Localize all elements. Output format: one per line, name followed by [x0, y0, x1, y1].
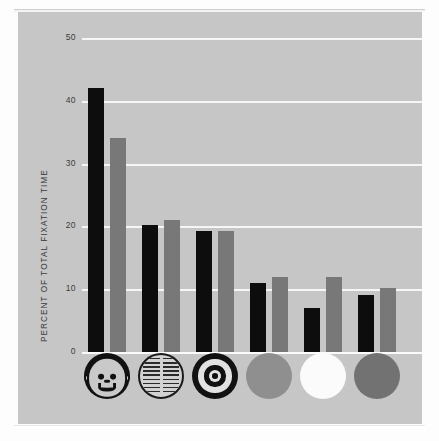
newsprint-columns [143, 358, 179, 394]
white-disc-stimulus-icon [300, 353, 346, 399]
chart-panel: 50 40 30 20 10 0 PERCENT OF TOTAL FIXATI… [18, 12, 422, 424]
bullseye-ring-4 [212, 373, 218, 379]
red-disc-stimulus-icon [246, 353, 292, 399]
stimulus-icons-row [18, 12, 422, 424]
newsprint-column-right [163, 358, 180, 394]
bullseye-stimulus-icon [192, 353, 238, 399]
chart-figure: 50 40 30 20 10 0 PERCENT OF TOTAL FIXATI… [0, 0, 439, 441]
face-ear-right [125, 374, 130, 382]
face-skin [89, 359, 125, 397]
face-eye-left [98, 374, 104, 380]
face-eye-right [110, 374, 116, 380]
bottom-divider-rule [14, 425, 425, 429]
newsprint-stimulus-icon [138, 353, 184, 399]
face-stimulus-icon [84, 353, 130, 399]
yellow-disc-stimulus-icon [354, 353, 400, 399]
face-mouth [98, 383, 117, 392]
newsprint-column-left [143, 358, 160, 394]
